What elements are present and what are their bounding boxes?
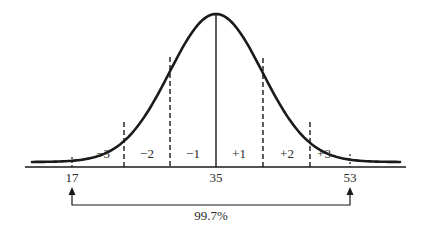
- normal-distribution-diagram: −3 −2 −1 +1 +2 +3 17 35 53 99.7%: [0, 0, 435, 229]
- axis-tick-label: 35: [210, 170, 223, 185]
- axis-tick-label: 53: [344, 170, 357, 185]
- region-label: +1: [232, 146, 246, 161]
- arrow-up-icon: [347, 187, 354, 195]
- range-percentage-label: 99.7%: [194, 208, 228, 223]
- range-bracket: [69, 187, 354, 205]
- arrow-up-icon: [69, 187, 76, 195]
- region-label: −3: [96, 146, 110, 161]
- region-label: −2: [140, 146, 154, 161]
- region-label: +3: [317, 146, 331, 161]
- region-label: −1: [186, 146, 200, 161]
- region-label: +2: [280, 146, 294, 161]
- axis-tick-label: 17: [66, 170, 80, 185]
